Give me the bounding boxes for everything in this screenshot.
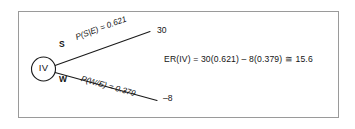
terminal-payoff-lower: –8 (163, 94, 173, 103)
terminal-payoff-upper: 30 (157, 26, 167, 35)
expected-return-equation: ER(IV) = 30(0.621) – 8(0.379) ≅ 15.6 (164, 55, 313, 64)
tree-graphics (0, 0, 355, 129)
branch-line-upper (55, 32, 150, 66)
branch-label-w: W (59, 75, 67, 84)
branch-label-s: S (59, 40, 65, 49)
decision-tree-figure: IV S W P(S|E) = 0.621 P(W/E) = 0.379 30 … (0, 0, 355, 129)
chance-node-label: IV (35, 63, 52, 73)
